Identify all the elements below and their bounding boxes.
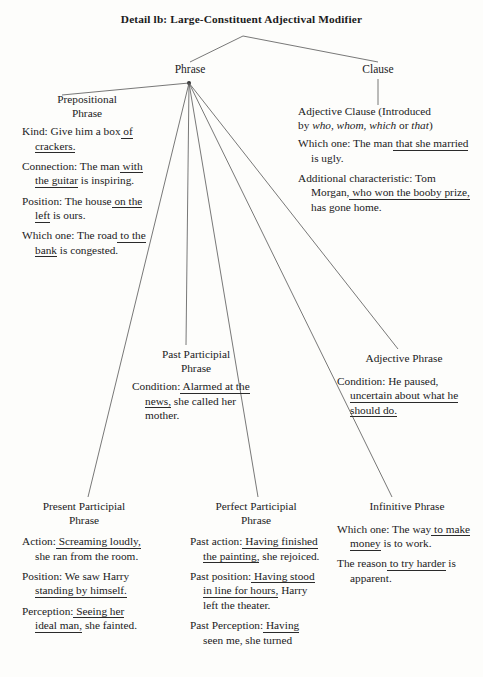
entry-text: box [101, 125, 121, 137]
example-entry: Past position: Having stood in line for … [190, 569, 322, 613]
underlined-modifier: standing by himself. [35, 584, 127, 598]
heading-line-2: Phrase [22, 107, 152, 121]
entry-text: she rejoiced. [259, 550, 319, 562]
heading-line-1: Prepositional [22, 93, 152, 107]
group-heading: Infinitive Phrase [337, 500, 477, 514]
example-entry: Position: The house on the left is ours. [22, 194, 152, 223]
group-adjective-clause: Adjective Clause (Introduced by who, who… [298, 105, 476, 215]
group-perfect-participial-phrase: Perfect Participial Phrase Past action: … [190, 500, 322, 647]
underlined-modifier: uncertain about what he should do. [350, 389, 458, 417]
entry-label: Past position: [190, 570, 251, 582]
group-heading: Perfect Participial Phrase [190, 500, 322, 527]
entry-label: Position: [22, 570, 62, 582]
node-phrase-label: Phrase [175, 63, 206, 75]
entry-label: Which one: [298, 137, 350, 149]
entry-label: Action: [22, 535, 56, 547]
entry-text: is ugly. [311, 152, 344, 164]
entry-label: Additional characteristic: [298, 172, 413, 184]
underlined-modifier: Screaming loudly, [56, 535, 141, 549]
entry-text: The way [389, 523, 431, 535]
entry-text: is inspiring. [78, 174, 134, 186]
entry-text: The reason [337, 557, 387, 569]
entry-list: Condition: He paused, uncertain about wh… [337, 374, 471, 418]
entry-text: We saw Harry [62, 570, 129, 582]
entry-list: Which one: The man that she married is u… [298, 136, 476, 214]
entry-text: The road [74, 229, 117, 241]
entry-list: Which one: The way to make money is to w… [337, 522, 477, 586]
entry-label: Condition: [132, 380, 180, 392]
entry-label: Past Perception: [190, 619, 263, 631]
entry-text: is to work. [381, 537, 432, 549]
example-entry: Connection: The man with the guitar is i… [22, 159, 152, 188]
heading-line-1: Past Participial [132, 348, 260, 362]
group-heading: Present Participial Phrase [22, 500, 146, 527]
example-entry: Past action: Having finished the paintin… [190, 534, 322, 563]
group-present-participial-phrase: Present Participial Phrase Action: Screa… [22, 500, 146, 633]
node-clause-label: Clause [362, 63, 393, 75]
entry-text: The man [77, 160, 119, 172]
example-entry: Action: Screaming loudly, she ran from t… [22, 534, 146, 563]
group-heading: Past Participial Phrase [132, 348, 260, 375]
group-heading: Adjective Phrase [337, 352, 471, 366]
heading-line-2: Phrase [22, 514, 146, 528]
entry-text: seen me, she turned [203, 634, 292, 646]
example-entry: Kind: Give him a box of crackers. [22, 124, 152, 153]
example-entry: Which one: The man that she married is u… [298, 136, 476, 165]
entry-text: is ours. [50, 209, 85, 221]
entry-text: is congested. [57, 244, 118, 256]
heading-line-1: Present Participial [22, 500, 146, 514]
example-entry: Which one: The road to the bank is conge… [22, 228, 152, 257]
heading-line-1: Perfect Participial [190, 500, 322, 514]
entry-label: Kind: [22, 125, 48, 137]
example-entry: Condition: Alarmed at the news, she call… [132, 379, 260, 423]
group-prepositional-phrase: Prepositional Phrase Kind: Give him a bo… [22, 93, 152, 257]
entry-text: The house [62, 195, 111, 207]
entry-list: Condition: Alarmed at the news, she call… [132, 379, 260, 423]
group-heading: Prepositional Phrase [22, 93, 152, 120]
underlined-modifier: to try harder [387, 557, 446, 571]
page-title: Detail lb: Large-Constituent Adjectival … [0, 13, 483, 25]
entry-label: Position: [22, 195, 62, 207]
node-clause: Clause [343, 63, 413, 77]
heading-line-2: Phrase [190, 514, 322, 528]
entry-label: Condition: [337, 375, 385, 387]
group-infinitive-phrase: Infinitive Phrase Which one: The way to … [337, 500, 477, 585]
underlined-modifier: who won the booby prize, [349, 186, 469, 200]
example-entry: Condition: He paused, uncertain about wh… [337, 374, 471, 418]
example-entry: Past Perception: Having seen me, she tur… [190, 618, 322, 647]
entry-text: Give him a [48, 125, 101, 137]
group-heading: Adjective Clause (Introduced by who, who… [298, 105, 476, 132]
entry-text: she ran from the room. [35, 550, 138, 562]
example-entry: Position: We saw Harry standing by himse… [22, 569, 146, 598]
heading-line-2: Phrase [132, 362, 260, 376]
entry-label: Connection: [22, 160, 77, 172]
entry-list: Past action: Having finished the paintin… [190, 534, 322, 647]
entry-text: The man [350, 137, 392, 149]
entry-label: Past action: [190, 535, 242, 547]
heading-line-1: Adjective Clause (Introduced [298, 105, 476, 119]
example-entry: Which one: The way to make money is to w… [337, 522, 477, 551]
node-phrase: Phrase [155, 63, 225, 77]
heading-line-2: by who, whom, which or that) [298, 119, 476, 133]
example-entry: Additional characteristic: Tom Morgan, w… [298, 171, 476, 215]
heading-line-1: Adjective Phrase [337, 352, 471, 366]
underlined-modifier: Having [263, 619, 299, 633]
underlined-modifier: that she married [393, 137, 469, 151]
group-adjective-phrase: Adjective Phrase Condition: He paused, u… [337, 352, 471, 417]
entry-text: has gone home. [311, 201, 382, 213]
entry-text: He paused, [385, 375, 438, 387]
example-entry: The reason to try harder is apparent. [337, 556, 477, 585]
entry-list: Action: Screaming loudly, she ran from t… [22, 534, 146, 633]
example-entry: Perception: Seeing her ideal man, she fa… [22, 604, 146, 633]
group-past-participial-phrase: Past Participial Phrase Condition: Alarm… [132, 348, 260, 423]
entry-text: she fainted. [82, 619, 137, 631]
heading-line-1: Infinitive Phrase [337, 500, 477, 514]
entry-label: Which one: [22, 229, 74, 241]
entry-list: Kind: Give him a box of crackers.Connect… [22, 124, 152, 257]
entry-label: Perception: [22, 605, 73, 617]
entry-label: Which one: [337, 523, 389, 535]
diagram-canvas: Detail lb: Large-Constituent Adjectival … [0, 0, 483, 677]
